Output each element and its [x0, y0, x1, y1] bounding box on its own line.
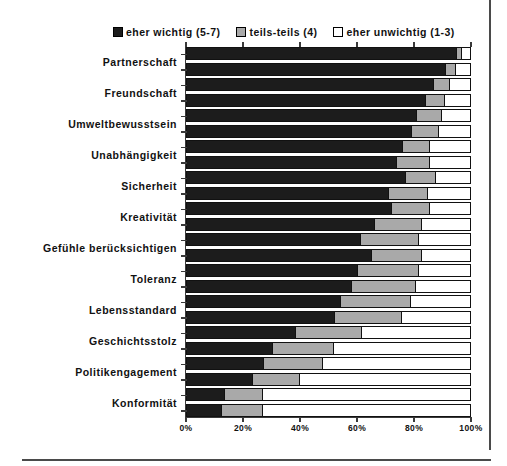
bar-row	[186, 295, 471, 308]
y-axis-tick	[181, 302, 187, 303]
x-axis-tick-top	[299, 42, 300, 47]
y-axis-tick	[181, 379, 187, 380]
bar-row	[186, 326, 471, 339]
x-axis-tick	[470, 417, 471, 422]
bar-segment-unwichtig	[430, 141, 470, 152]
bar-segment-teils	[351, 281, 416, 292]
bar-segment-unwichtig	[430, 203, 470, 214]
bar-segment-wichtig	[187, 327, 295, 338]
y-axis-tick	[181, 178, 187, 179]
bar-row	[186, 78, 471, 91]
bars-and-axes: 0%20%40%60%80%100%	[186, 46, 471, 418]
y-axis-tick	[181, 69, 187, 70]
bar-segment-teils	[252, 374, 300, 385]
legend-label: teils-teils (4)	[249, 27, 317, 38]
y-axis-tick	[181, 364, 187, 365]
bar-segment-teils	[334, 312, 402, 323]
bar-row	[186, 47, 471, 60]
bar-row	[186, 249, 471, 262]
x-axis-tick-top	[185, 42, 186, 47]
x-axis-tick-top	[413, 42, 414, 47]
y-axis-tick	[181, 116, 187, 117]
bar-segment-wichtig	[187, 312, 334, 323]
bar-row	[186, 94, 471, 107]
bar-row	[186, 373, 471, 386]
bar-segment-wichtig	[187, 110, 416, 121]
bar-segment-unwichtig	[439, 126, 470, 137]
category-label-2: Freundschaft	[104, 87, 177, 98]
bar-row	[186, 109, 471, 122]
y-axis-tick	[181, 410, 187, 411]
bar-segment-wichtig	[187, 389, 224, 400]
bar-row	[186, 311, 471, 324]
bar-segment-wichtig	[187, 64, 445, 75]
bar-segment-teils	[402, 141, 430, 152]
y-axis-tick	[181, 224, 187, 225]
legend-swatch-icon-wichtig	[113, 27, 123, 37]
chart-legend: eher wichtig (5-7)teils-teils (4)eher un…	[113, 24, 453, 40]
x-axis-tick-top	[242, 42, 243, 47]
bar-segment-wichtig	[187, 281, 351, 292]
bar-segment-wichtig	[187, 296, 340, 307]
x-axis-tick	[242, 417, 243, 422]
bar-row	[186, 156, 471, 169]
y-axis-tick	[181, 395, 187, 396]
x-axis-tick	[299, 417, 300, 422]
y-axis-tick	[181, 131, 187, 132]
y-axis-tick	[181, 162, 187, 163]
category-label-8: Toleranz	[131, 273, 177, 284]
bar-segment-teils	[445, 64, 456, 75]
bar-segment-unwichtig	[430, 157, 470, 168]
bar-segment-unwichtig	[445, 95, 470, 106]
bar-segment-wichtig	[187, 405, 221, 416]
bar-segment-teils	[224, 389, 264, 400]
category-label-10: Geschichtsstolz	[89, 335, 177, 346]
category-axis-labels: PartnerschaftFreundschaftUmweltbewusstse…	[0, 46, 181, 418]
category-label-5: Sicherheit	[121, 180, 177, 191]
bar-segment-wichtig	[187, 374, 252, 385]
bar-segment-teils	[340, 296, 411, 307]
bar-segment-unwichtig	[450, 79, 470, 90]
bar-segment-unwichtig	[462, 48, 470, 59]
y-axis-tick	[181, 209, 187, 210]
x-axis-tick-label: 40%	[291, 424, 309, 433]
bar-segment-teils	[425, 95, 445, 106]
category-label-3: Umweltbewusstsein	[68, 118, 177, 129]
bar-segment-teils	[221, 405, 263, 416]
bar-segment-unwichtig	[428, 188, 470, 199]
bar-row	[186, 202, 471, 215]
bar-segment-wichtig	[187, 95, 425, 106]
bar-segment-wichtig	[187, 157, 396, 168]
bar-segment-unwichtig	[416, 281, 470, 292]
bar-row	[186, 404, 471, 417]
bar-row	[186, 342, 471, 355]
x-axis-tick	[413, 417, 414, 422]
x-axis-tick	[185, 417, 186, 422]
bar-segment-wichtig	[187, 48, 456, 59]
category-label-11: Politikengagement	[75, 366, 177, 377]
bar-segment-teils	[416, 110, 441, 121]
x-axis-tick-label: 20%	[234, 424, 252, 433]
legend-label: eher unwichtig (1-3)	[346, 27, 454, 38]
y-axis-tick	[181, 286, 187, 287]
page-rule-bottom	[22, 459, 491, 461]
bar-segment-unwichtig	[422, 250, 470, 261]
bar-row	[186, 140, 471, 153]
bar-segment-teils	[263, 358, 322, 369]
bar-segment-wichtig	[187, 188, 388, 199]
bar-row	[186, 63, 471, 76]
bar-segment-unwichtig	[419, 234, 470, 245]
plot-area: PartnerschaftFreundschaftUmweltbewusstse…	[0, 46, 491, 418]
bar-row	[186, 125, 471, 138]
bar-segment-wichtig	[187, 126, 411, 137]
y-axis-tick	[181, 85, 187, 86]
bar-segment-teils	[388, 188, 428, 199]
category-label-9: Lebensstandard	[89, 304, 177, 315]
bar-segment-unwichtig	[334, 343, 470, 354]
x-axis-tick-top	[356, 42, 357, 47]
bar-segment-wichtig	[187, 79, 433, 90]
bar-segment-unwichtig	[323, 358, 470, 369]
bar-segment-wichtig	[187, 358, 263, 369]
category-label-6: Kreativität	[120, 211, 177, 222]
bar-segment-unwichtig	[263, 405, 470, 416]
